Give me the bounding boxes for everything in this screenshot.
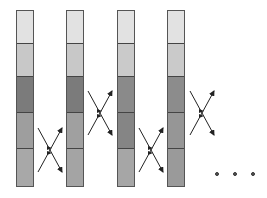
ellipsis-dot-icon xyxy=(251,172,255,176)
ellipsis-dot-icon xyxy=(215,172,219,176)
swap-arrows xyxy=(0,0,267,198)
ellipsis-dot-icon xyxy=(233,172,237,176)
